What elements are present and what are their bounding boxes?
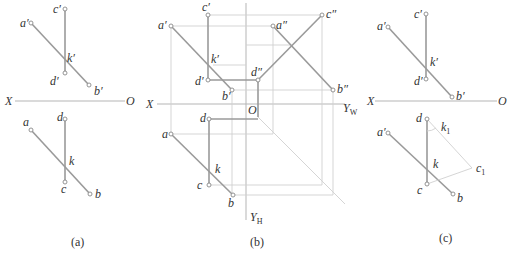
projection-diagram: a′ c′ k′ d′ b′ X O a d k c b (a) xyxy=(0,0,511,255)
label-d: d xyxy=(200,111,207,125)
label-b-prime: b′ xyxy=(222,89,231,103)
label-o: O xyxy=(126,94,135,108)
label-k: k xyxy=(433,157,439,171)
caption-b: (b) xyxy=(250,235,264,249)
point-a-prime-h xyxy=(386,131,390,135)
label-a: a xyxy=(23,115,29,129)
construction-45-line xyxy=(258,117,345,204)
label-b: b xyxy=(95,187,101,201)
label-d-prime: d′ xyxy=(50,74,59,88)
label-x: X xyxy=(4,94,13,108)
label-c-prime: c′ xyxy=(414,7,422,21)
point-c xyxy=(425,182,429,186)
line-ab-side xyxy=(273,26,333,90)
label-k: k xyxy=(69,154,75,168)
point-c xyxy=(207,183,211,187)
label-k-prime: k′ xyxy=(211,52,219,66)
point-a xyxy=(169,132,173,136)
label-a-prime: a′ xyxy=(158,18,167,32)
point-d-prime xyxy=(63,71,67,75)
label-d: d xyxy=(57,110,64,124)
label-yw: YW xyxy=(343,101,358,117)
label-d-prime: d′ xyxy=(195,74,204,88)
label-k1: k1 xyxy=(441,120,450,136)
point-a xyxy=(29,128,33,132)
label-b: b xyxy=(228,196,234,210)
panel-a: a′ c′ k′ d′ b′ X O a d k c b (a) xyxy=(4,2,135,249)
label-d: d xyxy=(416,111,423,125)
label-x: X xyxy=(145,97,154,111)
point-a-prime xyxy=(29,21,33,25)
label-b: b xyxy=(457,191,463,205)
line-ab-front xyxy=(31,23,89,85)
point-d xyxy=(207,117,211,121)
label-x: X xyxy=(366,94,375,108)
label-c1: c1 xyxy=(476,161,485,177)
point-b-prime xyxy=(450,95,454,99)
caption-a: (a) xyxy=(71,235,84,249)
point-b xyxy=(88,192,92,196)
label-o: O xyxy=(248,103,257,117)
label-a-prime-h: a′ xyxy=(377,125,386,139)
label-d-dprime: d″ xyxy=(251,65,263,79)
panel-c: a′ c′ k′ d′ b′ X O d k1 a′ k c1 c b (c) xyxy=(366,7,507,245)
panel-b: c′ a′ a″ c″ k′ d′ d″ b′ b″ X O YW d a k … xyxy=(145,0,358,249)
point-a-dprime xyxy=(271,24,275,28)
label-o: O xyxy=(498,94,507,108)
point-c-prime xyxy=(424,12,428,16)
point-c-dprime xyxy=(320,13,324,17)
label-a-prime: a′ xyxy=(20,16,29,30)
point-a-prime xyxy=(169,24,173,28)
label-c-prime: c′ xyxy=(53,2,61,16)
label-c: c xyxy=(197,178,203,192)
label-c: c xyxy=(417,183,423,197)
label-a: a xyxy=(162,127,168,141)
label-c-dprime: c″ xyxy=(326,7,337,21)
point-b-prime xyxy=(87,83,91,87)
line-cd-side xyxy=(258,15,322,80)
label-b-dprime: b″ xyxy=(337,82,349,96)
label-yh: YH xyxy=(250,210,263,226)
label-d-prime: d′ xyxy=(414,74,423,88)
point-d-prime xyxy=(424,77,428,81)
point-b xyxy=(451,192,455,196)
label-c: c xyxy=(61,182,67,196)
point-b-dprime xyxy=(331,88,335,92)
label-b-prime: b′ xyxy=(456,89,465,103)
label-a-dprime: a″ xyxy=(276,18,288,32)
label-k-prime: k′ xyxy=(67,51,75,65)
point-d-prime xyxy=(206,78,210,82)
label-b-prime: b′ xyxy=(94,84,103,98)
label-a-prime: a′ xyxy=(377,19,386,33)
label-c-prime: c′ xyxy=(202,0,210,14)
point-c-prime xyxy=(63,7,67,11)
angle-mark xyxy=(427,128,436,131)
point-d xyxy=(63,117,67,121)
label-k-prime: k′ xyxy=(430,55,438,69)
label-k: k xyxy=(215,162,221,176)
point-a-prime xyxy=(386,25,390,29)
point-d xyxy=(425,117,429,121)
caption-c: (c) xyxy=(439,231,452,245)
